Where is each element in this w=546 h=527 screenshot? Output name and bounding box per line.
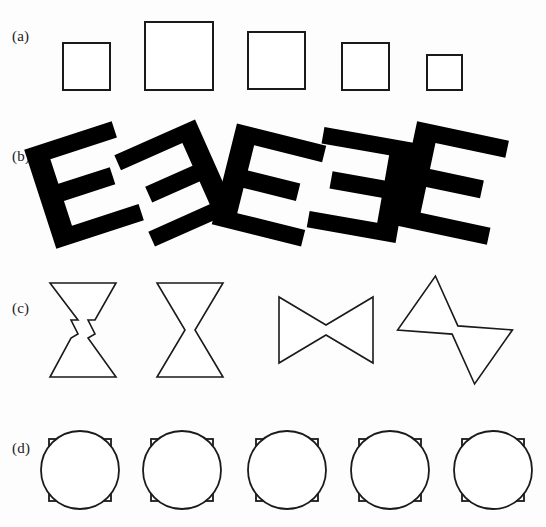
circle-square-4-square xyxy=(359,439,421,501)
circle-square-5-square xyxy=(462,439,524,501)
circle-square-4 xyxy=(351,431,429,509)
row-label-c: (c) xyxy=(12,300,29,317)
circle-square-3-circle xyxy=(248,431,326,509)
circle-square-5 xyxy=(454,431,532,509)
circle-square-1-circle xyxy=(41,431,119,509)
row-b-shapes xyxy=(24,119,509,248)
square-2 xyxy=(145,22,213,90)
circle-square-3 xyxy=(248,431,326,509)
circle-square-2-circle xyxy=(143,431,221,509)
circle-square-2-square xyxy=(151,439,213,501)
hourglass-1 xyxy=(50,283,116,377)
circle-square-4-circle xyxy=(351,431,429,509)
letter-e-1 xyxy=(24,121,144,248)
shape-svg xyxy=(0,0,546,527)
shape-canvas xyxy=(0,0,546,527)
circle-square-1-square xyxy=(49,439,111,501)
row-label-b: (b) xyxy=(12,148,30,165)
square-4 xyxy=(342,43,389,90)
circle-square-5-circle xyxy=(454,431,532,509)
row-label-a: (a) xyxy=(12,28,29,45)
letter-e-5 xyxy=(395,121,509,244)
circle-square-3-square xyxy=(256,439,318,501)
letter-e-4 xyxy=(307,127,413,243)
row-d-shapes xyxy=(41,431,532,509)
letter-e-2 xyxy=(114,119,235,246)
hourglass-2 xyxy=(157,283,223,377)
hourglass-3 xyxy=(279,297,373,363)
hourglass-4 xyxy=(398,276,513,384)
circle-square-2 xyxy=(143,431,221,509)
square-1 xyxy=(63,43,110,90)
square-5 xyxy=(427,55,462,90)
row-label-d: (d) xyxy=(12,440,30,457)
letter-e-3 xyxy=(212,123,326,246)
row-c-shapes xyxy=(50,276,512,384)
row-a-shapes xyxy=(63,22,462,90)
shape-figure: (a) (b) (c) (d) xyxy=(0,0,546,527)
square-3 xyxy=(248,32,305,89)
circle-square-1 xyxy=(41,431,119,509)
